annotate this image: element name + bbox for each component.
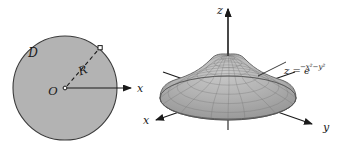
equation-leader-line: [258, 62, 286, 76]
boundary-point-marker: [98, 46, 102, 50]
figure-root: D O R x: [0, 0, 343, 148]
disk-x-axis-label: x: [137, 82, 144, 95]
gaussian-surface-diagram: D: [143, 4, 330, 134]
equation-exponent: −x²−y²: [300, 63, 325, 71]
surface-y-axis-label: y: [322, 121, 330, 134]
origin-label-o: O: [48, 84, 58, 98]
region-label-d: D: [27, 46, 38, 60]
gaussian-surface-body: [160, 54, 296, 119]
disk-region-diagram: D O R x: [13, 36, 144, 140]
surface-x-axis-label: x: [143, 114, 150, 127]
origin-marker: [63, 86, 67, 90]
diagram-canvas: D O R x: [0, 0, 343, 148]
surface-equation-label: z = e −x²−y²: [283, 63, 325, 76]
surface-z-axis-label: z: [216, 4, 223, 17]
